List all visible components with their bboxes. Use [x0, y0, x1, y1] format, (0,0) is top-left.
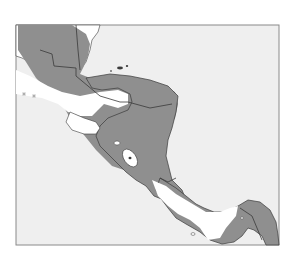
central-america-map — [0, 0, 294, 257]
ometepe-island — [129, 157, 132, 159]
lake-managua — [114, 141, 120, 145]
island — [126, 65, 128, 67]
island — [110, 70, 112, 72]
island — [241, 217, 244, 219]
island — [117, 67, 123, 70]
island — [191, 233, 195, 236]
